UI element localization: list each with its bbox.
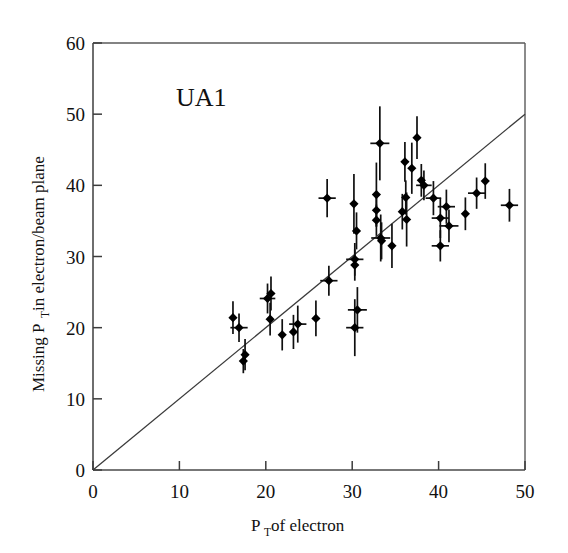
y-axis-label-sub: T — [39, 311, 51, 318]
figure-container: 010203040506001020304050 P T of electron… — [0, 0, 568, 553]
data-point — [400, 157, 409, 166]
y-axis-label: Missing P T in electron/beam plane — [29, 156, 51, 392]
data-point — [266, 315, 275, 324]
data-point — [349, 199, 358, 208]
reference-line-path — [93, 114, 525, 470]
x-axis-label-main: P — [251, 516, 260, 535]
data-point — [375, 139, 384, 148]
axis-tick-labels: 010203040506001020304050 — [66, 33, 535, 502]
y-tick-label: 60 — [66, 33, 85, 54]
data-points — [228, 133, 514, 366]
data-point — [239, 357, 248, 366]
data-point — [387, 241, 396, 250]
data-point — [505, 201, 514, 210]
data-point — [234, 323, 243, 332]
data-point — [407, 164, 416, 173]
data-point — [481, 176, 490, 185]
experiment-annotation: UA1 — [176, 83, 227, 112]
y-tick-label: 10 — [66, 389, 85, 410]
x-axis-label-sub: T — [264, 526, 271, 538]
error-bars — [230, 106, 518, 373]
x-tick-label: 10 — [170, 481, 189, 502]
axis-ticks — [93, 43, 525, 470]
data-point — [472, 189, 481, 198]
plot-frame — [93, 43, 525, 470]
data-point — [324, 276, 333, 285]
y-tick-label: 30 — [66, 247, 85, 268]
data-point — [278, 330, 287, 339]
data-point — [289, 327, 298, 336]
x-tick-label: 40 — [429, 481, 448, 502]
data-point — [436, 241, 445, 250]
scatter-plot: 010203040506001020304050 P T of electron… — [0, 0, 568, 553]
data-point — [429, 194, 438, 203]
data-point — [372, 206, 381, 215]
y-tick-label: 20 — [66, 318, 85, 339]
x-tick-label: 30 — [343, 481, 362, 502]
data-point — [436, 213, 445, 222]
data-point — [311, 314, 320, 323]
data-point — [372, 216, 381, 225]
y-tick-label: 50 — [66, 104, 85, 125]
data-point — [293, 320, 302, 329]
y-axis-label-rest: in electron/beam plane — [29, 156, 48, 311]
x-tick-label: 50 — [516, 481, 535, 502]
data-point — [350, 260, 359, 269]
data-point — [228, 313, 237, 322]
x-axis-label: P T of electron — [251, 516, 345, 538]
x-tick-label: 0 — [88, 481, 98, 502]
data-point — [412, 133, 421, 142]
data-point — [372, 190, 381, 199]
y-axis-label-main: Missing P — [29, 324, 48, 393]
y-tick-label: 0 — [76, 460, 86, 481]
x-axis-label-rest: of electron — [271, 516, 345, 535]
data-point — [461, 209, 470, 218]
data-point — [323, 194, 332, 203]
reference-line — [93, 114, 525, 470]
data-point — [240, 350, 249, 359]
y-tick-label: 40 — [66, 175, 85, 196]
x-tick-label: 20 — [256, 481, 275, 502]
data-point — [402, 215, 411, 224]
